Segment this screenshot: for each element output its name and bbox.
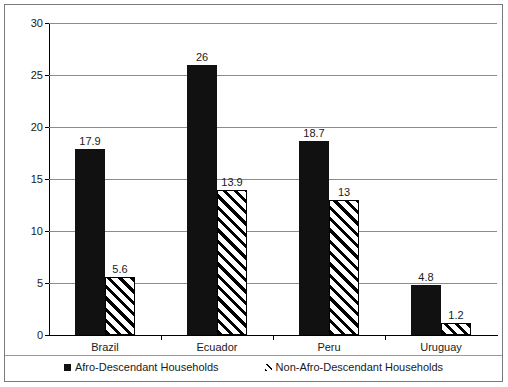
legend-item-non-afro-descendant: Non-Afro-Descendant Households	[265, 361, 444, 373]
y-axis-tick-mark	[45, 179, 49, 180]
x-axis-category-label: Ecuador	[197, 341, 238, 353]
legend-divider	[5, 355, 502, 356]
bar-value-label: 26	[196, 51, 208, 63]
y-axis-tick-mark	[45, 231, 49, 232]
y-axis-tick-mark	[45, 127, 49, 128]
x-axis-category-label: Peru	[317, 341, 340, 353]
y-axis-tick-mark	[45, 335, 49, 336]
legend-label: Afro-Descendant Households	[75, 361, 219, 373]
bar-value-label: 13	[338, 186, 350, 198]
bar: 17.9	[75, 149, 105, 335]
bar: 26	[187, 65, 217, 335]
y-axis-tick-mark	[45, 283, 49, 284]
legend-label: Non-Afro-Descendant Households	[276, 361, 444, 373]
bar-value-label: 4.8	[418, 271, 433, 283]
y-axis-tick-label: 20	[31, 121, 43, 133]
chart-legend: Afro-Descendant Households Non-Afro-Desc…	[5, 361, 502, 373]
hatched-square-marker-icon	[265, 364, 272, 371]
chart-figure: 05101520253017.95.62613.918.7134.81.2 Af…	[4, 4, 503, 382]
bar: 13.9	[217, 190, 247, 335]
y-axis-tick-label: 10	[31, 225, 43, 237]
bar-group-ecuador: 2613.9	[187, 23, 247, 335]
y-axis-tick-label: 15	[31, 173, 43, 185]
x-axis-category-label: Brazil	[91, 341, 119, 353]
bar-value-label: 13.9	[221, 176, 242, 188]
bar-value-label: 17.9	[79, 135, 100, 147]
bar-value-label: 5.6	[112, 263, 127, 275]
bar-group-peru: 18.713	[299, 23, 359, 335]
y-axis-tick-label: 5	[37, 277, 43, 289]
bar-group-uruguay: 4.81.2	[411, 23, 471, 335]
y-axis-tick-label: 0	[37, 329, 43, 341]
x-axis-tick-mark	[161, 335, 162, 340]
bar-value-label: 18.7	[303, 127, 324, 139]
legend-item-afro-descendant: Afro-Descendant Households	[64, 361, 219, 373]
bar: 13	[329, 200, 359, 335]
x-axis-category-label: Uruguay	[420, 341, 462, 353]
y-axis-tick-label: 25	[31, 69, 43, 81]
x-axis-tick-mark	[385, 335, 386, 340]
solid-square-marker-icon	[64, 364, 71, 371]
bar: 4.8	[411, 285, 441, 335]
x-axis-tick-mark	[273, 335, 274, 340]
bar: 18.7	[299, 141, 329, 335]
bar: 5.6	[105, 277, 135, 335]
bar: 1.2	[441, 323, 471, 335]
y-axis-tick-mark	[45, 23, 49, 24]
bar-value-label: 1.2	[448, 309, 463, 321]
y-axis-tick-label: 30	[31, 17, 43, 29]
plot-area: 05101520253017.95.62613.918.7134.81.2	[49, 23, 497, 335]
y-axis-tick-mark	[45, 75, 49, 76]
bar-group-brazil: 17.95.6	[75, 23, 135, 335]
